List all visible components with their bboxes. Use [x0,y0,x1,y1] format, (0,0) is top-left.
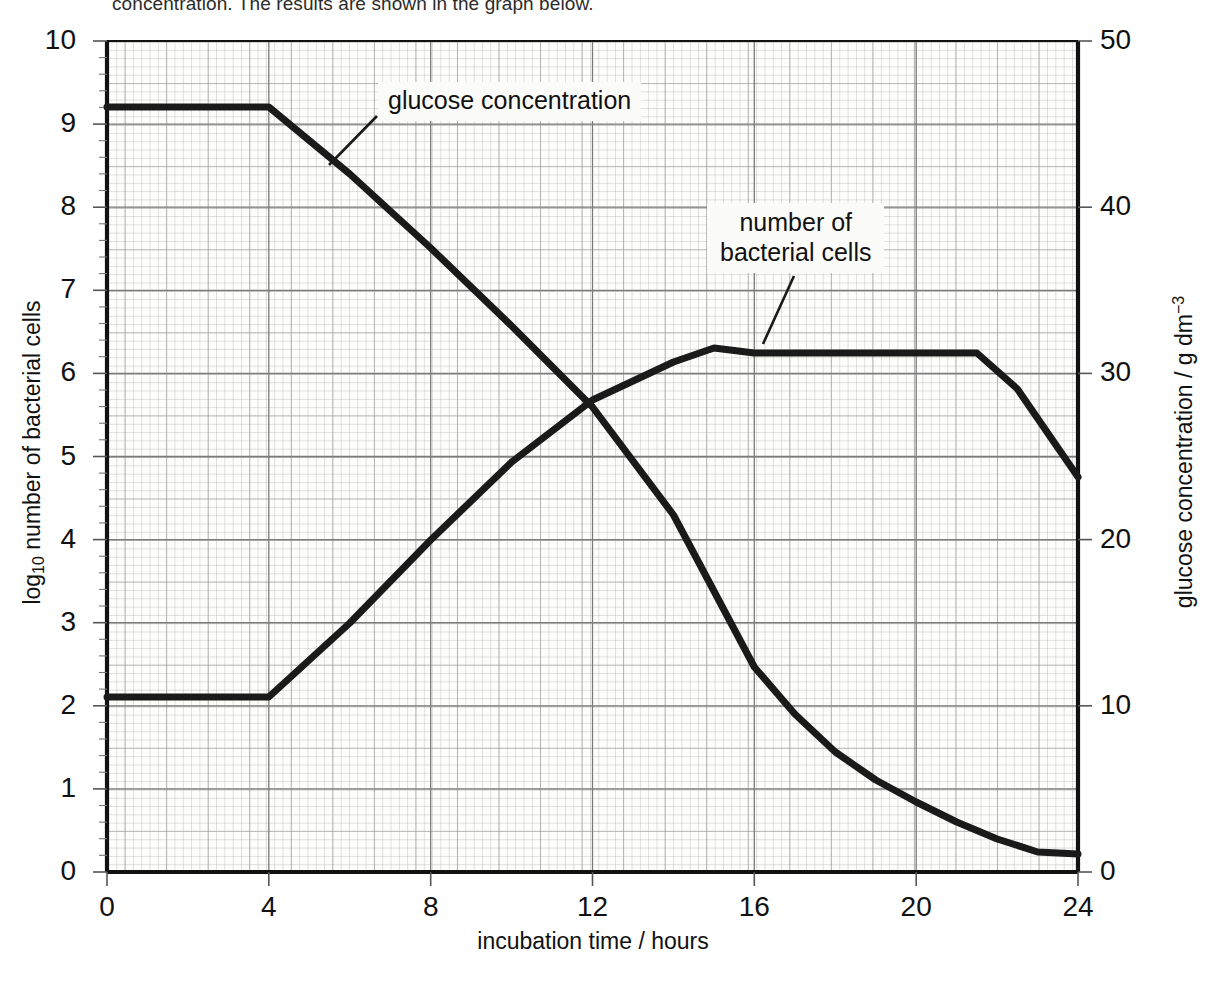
callout-bacteria-line1: number of [720,208,871,238]
x-tick-24: 24 [1048,893,1108,921]
y-left-tick-1: 1 [30,774,76,802]
y-axis-right-title-superscript: −3 [1170,296,1187,314]
y-left-tick-9: 9 [30,109,76,137]
y-axis-left-title-main: log [19,574,45,605]
chart-plot-svg [0,0,1206,982]
y-left-tick-8: 8 [30,192,76,220]
callout-glucose-concentration: glucose concentration [378,82,641,121]
x-tick-12: 12 [563,893,623,921]
x-tick-4: 4 [239,893,299,921]
x-tick-16: 16 [724,893,784,921]
y-axis-right-title: glucose concentration / g dm−3 [1170,252,1198,652]
x-tick-0: 0 [77,893,137,921]
x-tick-20: 20 [886,893,946,921]
y-right-tick-50: 50 [1100,26,1160,54]
y-axis-right-title-main: glucose concentration / g dm [1171,314,1197,608]
y-right-tick-40: 40 [1100,192,1160,220]
y-axis-left-title: log10 number of bacterial cells [19,253,48,653]
callout-number-of-bacterial-cells: number of bacterial cells [707,203,884,273]
y-right-tick-30: 30 [1100,358,1160,386]
y-left-tick-0: 0 [30,857,76,885]
y-left-tick-2: 2 [30,691,76,719]
y-right-tick-10: 10 [1100,691,1160,719]
x-tick-8: 8 [401,893,461,921]
callout-bacteria-line2: bacterial cells [720,238,871,268]
x-axis-title: incubation time / hours [393,928,793,955]
y-right-tick-0: 0 [1100,857,1160,885]
y-right-tick-20: 20 [1100,525,1160,553]
y-axis-left-title-subscript: 10 [30,556,47,574]
y-left-tick-10: 10 [30,26,76,54]
chart-figure: concentration. The results are shown in … [0,0,1206,982]
y-axis-left-title-rest: number of bacterial cells [19,300,45,556]
